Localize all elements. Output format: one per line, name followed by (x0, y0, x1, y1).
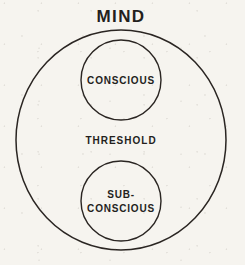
diagram-canvas: MIND CONSCIOUS THRESHOLD SUB- CONSCIOUS (0, 0, 245, 265)
subconscious-label-line2: CONSCIOUS (87, 203, 155, 214)
subconscious-label-line1: SUB- (107, 189, 135, 200)
mind-diagram: MIND CONSCIOUS THRESHOLD SUB- CONSCIOUS (0, 0, 245, 265)
threshold-label: THRESHOLD (85, 135, 156, 146)
mind-title: MIND (96, 7, 145, 26)
conscious-label: CONSCIOUS (87, 75, 155, 86)
